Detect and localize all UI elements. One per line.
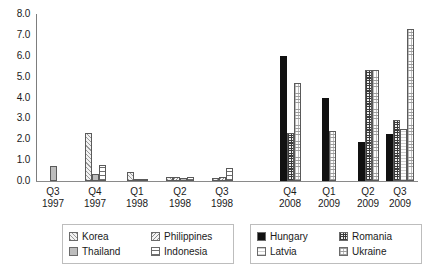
legend-swatch-hungary-icon <box>257 232 266 241</box>
bar-latvia-q3-2009 <box>400 129 407 181</box>
legend-swatch-indonesia-icon <box>151 247 160 256</box>
legend-item-korea[interactable]: Korea <box>69 229 145 244</box>
bar-indonesia-q2-1998 <box>187 177 194 181</box>
legend-label: Hungary <box>270 232 308 242</box>
bar-romania-q3-2009 <box>393 120 400 181</box>
legend-item-latvia[interactable]: Latvia <box>257 244 333 259</box>
legend-asia: KoreaPhilippinesThailandIndonesia <box>62 224 234 264</box>
bar-chart: 0.01.02.03.04.05.06.07.08.0 Q31997Q41997… <box>0 0 430 280</box>
legend-item-romania[interactable]: Romania <box>339 229 415 244</box>
x-tick-year: 2009 <box>308 198 350 210</box>
bar-hungary-q4-2008 <box>280 56 287 181</box>
y-tick-8.0: 8.0 <box>0 9 30 19</box>
legend-label: Ukraine <box>352 247 386 257</box>
x-tick-year: 1998 <box>201 198 243 210</box>
bar-thailand-q3-1997 <box>50 166 57 181</box>
x-axis-line <box>36 181 418 182</box>
legend-label: Korea <box>82 232 109 242</box>
bar-korea-q1-1998 <box>127 172 134 181</box>
bar-ukraine-q4-2008 <box>294 83 301 181</box>
x-tick-Q3-1997: Q31997 <box>32 186 74 209</box>
bar-ukraine-q3-2009 <box>407 29 414 181</box>
bars-layer <box>36 14 418 181</box>
x-tick-quarter: Q1 <box>116 186 158 198</box>
bar-romania-q4-2008 <box>287 133 294 181</box>
y-tick-0.0: 0.0 <box>0 176 30 186</box>
bar-hungary-q2-2009 <box>358 142 365 181</box>
x-tick-Q4-1997: Q41997 <box>74 186 116 209</box>
bar-thailand-q2-1998 <box>180 178 187 181</box>
x-tick-Q1-2009: Q12009 <box>308 186 350 209</box>
y-tick-6.0: 6.0 <box>0 51 30 61</box>
x-tick-Q3-2009: Q32009 <box>379 186 421 209</box>
bar-hungary-q1-2009 <box>322 98 329 182</box>
y-tick-1.0: 1.0 <box>0 155 30 165</box>
legend-europe: HungaryRomaniaLatviaUkraine <box>250 224 422 264</box>
legend-swatch-ukraine-icon <box>339 247 348 256</box>
legend-swatch-korea-icon <box>69 232 78 241</box>
legend-label: Indonesia <box>164 247 207 257</box>
y-tick-4.0: 4.0 <box>0 93 30 103</box>
y-tick-2.0: 2.0 <box>0 134 30 144</box>
bar-hungary-q3-2009 <box>386 134 393 181</box>
bar-korea-q4-1997 <box>85 133 92 181</box>
legend-item-indonesia[interactable]: Indonesia <box>151 244 227 259</box>
x-tick-year: 1997 <box>32 198 74 210</box>
bar-philippines-q3-1998 <box>219 177 226 181</box>
x-tick-quarter: Q1 <box>308 186 350 198</box>
legend-swatch-thailand-icon <box>69 247 78 256</box>
x-tick-Q2-1998: Q21998 <box>159 186 201 209</box>
bar-philippines-q2-1998 <box>173 177 180 181</box>
x-tick-quarter: Q4 <box>269 186 311 198</box>
bar-philippines-q1-1998 <box>134 179 141 181</box>
bar-indonesia-q4-1997 <box>99 165 106 181</box>
x-tick-year: 2008 <box>269 198 311 210</box>
x-tick-quarter: Q4 <box>74 186 116 198</box>
bar-romania-q2-2009 <box>365 70 372 181</box>
legend-swatch-philippines-icon <box>151 232 160 241</box>
legend-swatch-romania-icon <box>339 232 348 241</box>
bar-korea-q2-1998 <box>166 177 173 181</box>
x-tick-Q1-1998: Q11998 <box>116 186 158 209</box>
legend-item-hungary[interactable]: Hungary <box>257 229 333 244</box>
x-tick-Q3-1998: Q31998 <box>201 186 243 209</box>
bar-indonesia-q3-1998 <box>226 168 233 181</box>
bar-korea-q3-1998 <box>212 178 219 181</box>
x-tick-quarter: Q3 <box>201 186 243 198</box>
legend-item-philippines[interactable]: Philippines <box>151 229 227 244</box>
y-tick-3.0: 3.0 <box>0 113 30 123</box>
legend-swatch-latvia-icon <box>257 247 266 256</box>
x-tick-year: 1997 <box>74 198 116 210</box>
legend-label: Philippines <box>164 232 212 242</box>
legend-item-thailand[interactable]: Thailand <box>69 244 145 259</box>
bar-ukraine-q1-2009 <box>329 131 336 181</box>
x-tick-quarter: Q2 <box>159 186 201 198</box>
x-tick-year: 1998 <box>159 198 201 210</box>
legend-item-ukraine[interactable]: Ukraine <box>339 244 415 259</box>
bar-ukraine-q2-2009 <box>372 70 379 181</box>
bar-thailand-q4-1997 <box>92 174 99 181</box>
x-tick-quarter: Q3 <box>379 186 421 198</box>
legend-label: Latvia <box>270 247 297 257</box>
legend-label: Thailand <box>82 247 120 257</box>
bar-indonesia-q1-1998 <box>141 179 148 181</box>
x-tick-year: 2009 <box>379 198 421 210</box>
y-tick-5.0: 5.0 <box>0 72 30 82</box>
legend-label: Romania <box>352 232 392 242</box>
x-tick-quarter: Q3 <box>32 186 74 198</box>
y-tick-7.0: 7.0 <box>0 30 30 40</box>
x-tick-year: 1998 <box>116 198 158 210</box>
x-tick-Q4-2008: Q42008 <box>269 186 311 209</box>
